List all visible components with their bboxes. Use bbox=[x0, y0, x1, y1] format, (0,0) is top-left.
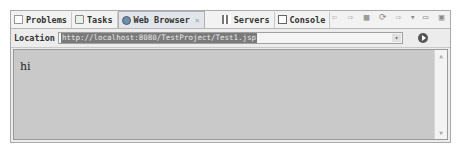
scroll-down-icon[interactable]: ▼ bbox=[435, 128, 447, 138]
servers-icon bbox=[222, 15, 231, 24]
page-content: hi ▲ ▼ bbox=[13, 49, 448, 140]
minimize-icon[interactable]: ▭ bbox=[421, 13, 430, 22]
tab-label: Tasks bbox=[87, 15, 113, 25]
maximize-icon[interactable]: ▣ bbox=[437, 13, 446, 22]
tasks-icon bbox=[75, 15, 84, 24]
location-url: http://localhost:8080/TestProject/Test1.… bbox=[61, 33, 257, 43]
tab-problems[interactable]: Problems bbox=[11, 12, 72, 28]
stop-icon[interactable]: ▦ bbox=[362, 13, 371, 22]
forward-icon[interactable]: ⇨ bbox=[346, 13, 355, 22]
tab-web-browser[interactable]: Web Browser ✕ bbox=[118, 11, 205, 28]
problems-icon bbox=[14, 15, 23, 24]
location-bar: Location http://localhost:8080/TestProje… bbox=[11, 29, 450, 48]
tab-label: Problems bbox=[26, 15, 67, 25]
scroll-up-icon[interactable]: ▲ bbox=[435, 51, 447, 61]
tab-console[interactable]: Console bbox=[275, 12, 331, 28]
location-label: Location bbox=[14, 33, 55, 43]
tab-bar: Problems Tasks Web Browser ✕ Servers Con… bbox=[11, 11, 450, 29]
go-button[interactable] bbox=[418, 33, 428, 43]
tab-label: Servers bbox=[234, 15, 270, 25]
tab-servers[interactable]: Servers bbox=[219, 12, 275, 28]
web-browser-icon bbox=[122, 16, 131, 25]
tab-label: Console bbox=[290, 15, 326, 25]
page-text: hi bbox=[20, 60, 31, 73]
view-menu-icon[interactable]: ▾ bbox=[410, 13, 414, 22]
view-toolbar: ⇦ ⇨ ▦ ⟳ ⇨ ▾ ▭ ▣ bbox=[330, 13, 446, 22]
chevron-down-icon[interactable]: ▾ bbox=[392, 34, 401, 42]
tab-label: Web Browser bbox=[134, 15, 190, 25]
close-tab-icon[interactable]: ✕ bbox=[195, 16, 200, 25]
tab-tasks[interactable]: Tasks bbox=[72, 12, 118, 28]
web-browser-view: Problems Tasks Web Browser ✕ Servers Con… bbox=[10, 10, 451, 143]
vertical-scrollbar[interactable]: ▲ ▼ bbox=[434, 50, 447, 139]
location-input[interactable]: http://localhost:8080/TestProject/Test1.… bbox=[58, 32, 403, 44]
back-icon[interactable]: ⇦ bbox=[330, 13, 339, 22]
console-icon bbox=[278, 15, 287, 24]
refresh-icon[interactable]: ⟳ bbox=[378, 13, 387, 22]
open-external-icon[interactable]: ⇨ bbox=[394, 13, 403, 22]
